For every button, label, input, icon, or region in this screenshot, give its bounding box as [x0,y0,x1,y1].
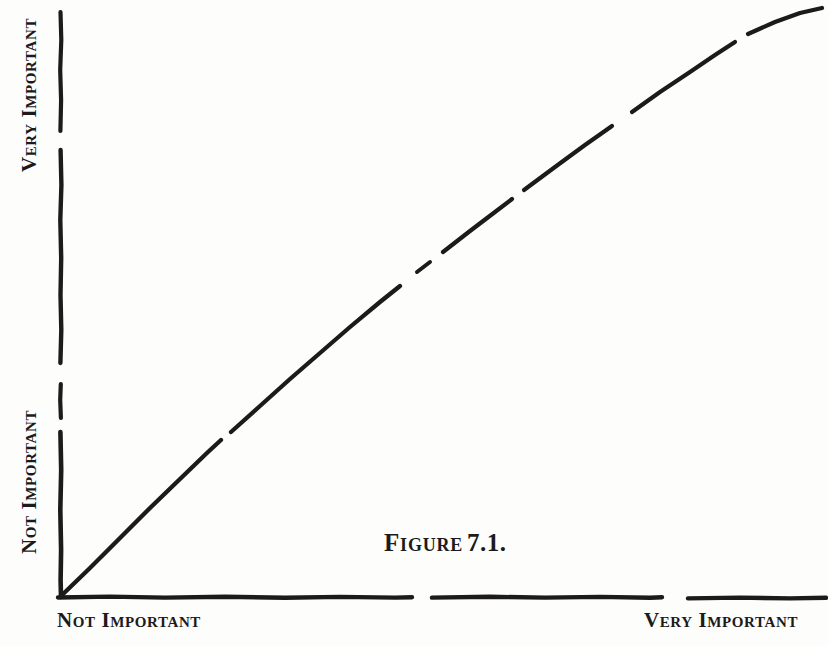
figure-container: Very Important Not Important Not Importa… [0,0,828,646]
x-axis-right-label: Very Important [644,610,798,631]
x-axis-line [58,597,826,599]
data-line [61,8,822,596]
y-axis-top-label: Very Important [19,18,40,172]
figure-caption: Figure7.1. [384,529,507,557]
figure-caption-number: 7.1. [467,529,507,556]
x-axis-left-label: Not Important [57,610,201,631]
y-axis-bottom-label: Not Important [19,410,40,554]
y-axis-line [60,12,61,597]
figure-caption-word: Figure [384,529,463,556]
